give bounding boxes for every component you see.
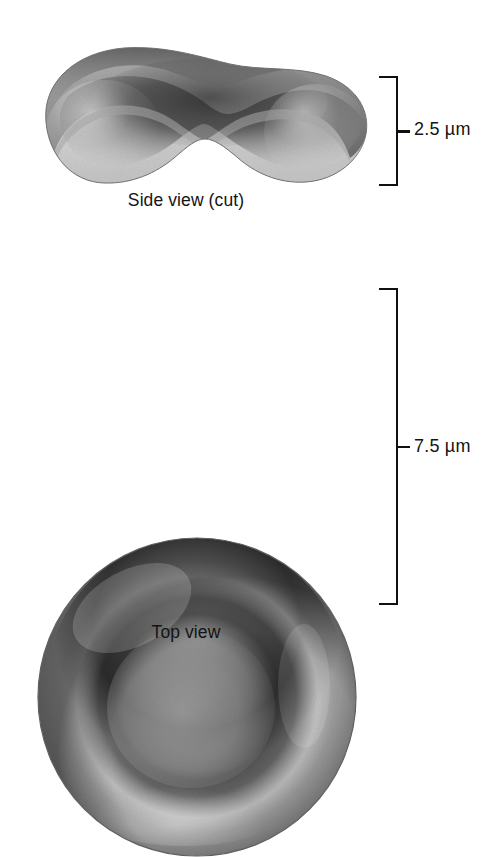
side-view-caption: Side view (cut) <box>0 190 372 211</box>
top-view-panel: 7.5 µm Top view <box>0 250 503 663</box>
top-view-caption: Top view <box>0 622 372 643</box>
thickness-measure-label: 2.5 µm <box>414 119 471 140</box>
side-view-cell-illustration <box>38 36 372 192</box>
thickness-measure-tick <box>396 130 410 133</box>
diameter-measure-bracket <box>379 288 398 605</box>
diameter-measure-label: 7.5 µm <box>414 436 471 457</box>
side-view-panel: 2.5 µm Side view (cut) <box>0 0 503 220</box>
top-view-cell-illustration <box>36 536 358 858</box>
thickness-measure-bracket <box>379 76 398 186</box>
diameter-measure-tick <box>396 446 410 449</box>
